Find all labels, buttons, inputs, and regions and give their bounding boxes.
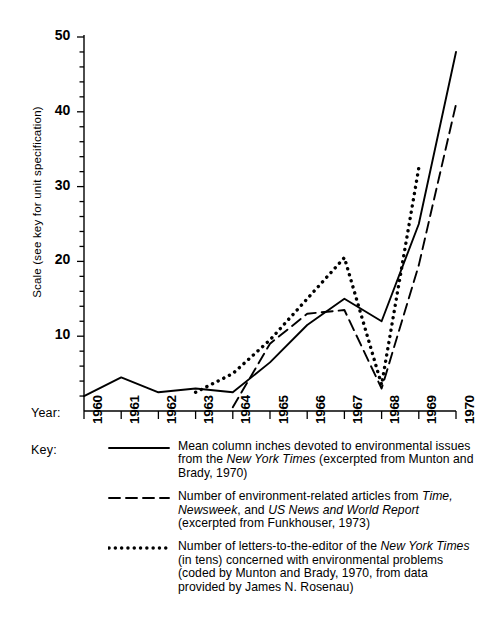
legend-entry: Number of environment-related articles f…	[108, 490, 474, 530]
legend-entry-text: Number of environment-related articles f…	[178, 490, 474, 530]
key-row-label: Key:	[31, 443, 57, 457]
x-tick-label: 1967	[350, 395, 365, 424]
legend-swatch-dotted	[108, 544, 170, 558]
x-tick-label: 1964	[238, 395, 253, 424]
chart-legend: Mean column inches devoted to environmen…	[108, 440, 474, 604]
chart-canvas	[0, 0, 492, 440]
x-tick-label: 1969	[424, 395, 439, 424]
legend-entry: Mean column inches devoted to environmen…	[108, 440, 474, 480]
y-tick-label: 50	[36, 27, 70, 43]
figure-root: Scale (see key for unit specification) 1…	[0, 0, 492, 617]
x-tick-label: 1962	[164, 395, 179, 424]
plot-area: Scale (see key for unit specification) 1…	[0, 0, 492, 440]
x-tick-label: 1970	[462, 395, 477, 424]
y-tick-label: 30	[36, 177, 70, 193]
y-tick-label: 40	[36, 102, 70, 118]
x-tick-label: 1961	[127, 395, 142, 424]
series-layer	[84, 52, 456, 407]
series-line-dotted	[196, 168, 419, 392]
legend-entry-text: Number of letters-to-the-editor of the N…	[178, 540, 474, 594]
legend-entry: Number of letters-to-the-editor of the N…	[108, 540, 474, 594]
x-tick-label: 1968	[387, 395, 402, 424]
year-row-label: Year:	[31, 406, 61, 420]
y-tick-label: 20	[36, 251, 70, 267]
axis-layer	[77, 35, 456, 419]
x-tick-label: 1966	[313, 395, 328, 424]
x-tick-label: 1965	[276, 395, 291, 424]
x-tick-label: 1960	[90, 395, 105, 424]
y-tick-label: 10	[36, 326, 70, 342]
series-line-dashed	[233, 104, 456, 407]
x-tick-label: 1963	[201, 395, 216, 424]
legend-swatch-solid	[108, 444, 170, 458]
legend-entry-text: Mean column inches devoted to environmen…	[178, 440, 474, 480]
legend-swatch-dashed	[108, 494, 170, 508]
